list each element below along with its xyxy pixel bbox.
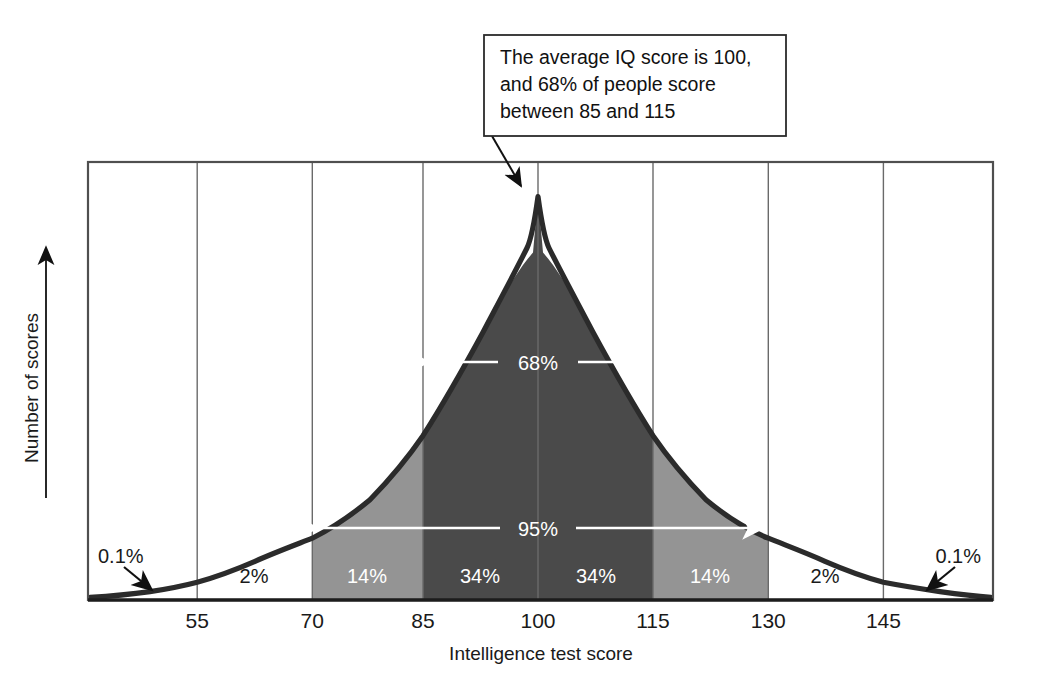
pct-label-115-130: 14% [690, 565, 730, 587]
xtick-label-145: 145 [866, 609, 901, 632]
span-68-label: 68% [518, 352, 558, 374]
y-axis-title: Number of scores [21, 313, 42, 463]
xtick-label-130: 130 [751, 609, 786, 632]
figure-canvas: 68% 95% 2% 14% 34% 34% 14% 2% 0.1% 0.1% … [0, 0, 1041, 691]
pct-label-right-tail: 0.1% [935, 545, 981, 567]
pct-label-left-tail: 0.1% [98, 545, 144, 567]
callout-line-1: The average IQ score is 100, [500, 46, 751, 68]
pct-label-130-145: 2% [811, 565, 840, 587]
callout-line-3: between 85 and 115 [500, 100, 675, 122]
pct-label-100-115: 34% [576, 565, 616, 587]
span-95-label: 95% [518, 518, 558, 540]
xtick-label-70: 70 [301, 609, 324, 632]
pct-label-85-100: 34% [460, 565, 500, 587]
pct-label-55-70: 2% [240, 565, 269, 587]
y-axis-annotation: Number of scores [21, 248, 46, 498]
x-axis-title: Intelligence test score [449, 643, 633, 664]
callout-line-2: and 68% of people score [500, 73, 716, 95]
xtick-label-85: 85 [411, 609, 434, 632]
xtick-label-115: 115 [636, 609, 669, 632]
xtick-label-100: 100 [520, 609, 555, 632]
pct-label-70-85: 14% [347, 565, 387, 587]
xtick-label-55: 55 [186, 609, 209, 632]
